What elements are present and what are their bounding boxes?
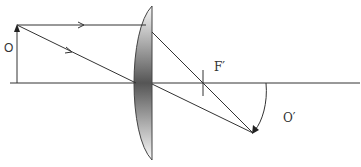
object-label: O bbox=[4, 41, 13, 55]
image-arrow bbox=[252, 83, 266, 134]
ray-diagram: O F′ O′ bbox=[0, 0, 361, 167]
lens bbox=[134, 6, 152, 160]
object-arrow bbox=[14, 24, 20, 83]
focal-point-label: F′ bbox=[214, 60, 225, 74]
image-label: O′ bbox=[283, 111, 296, 125]
